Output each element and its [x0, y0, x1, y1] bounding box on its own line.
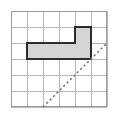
grid-figure-svg — [0, 0, 114, 116]
figure-container — [0, 0, 114, 116]
